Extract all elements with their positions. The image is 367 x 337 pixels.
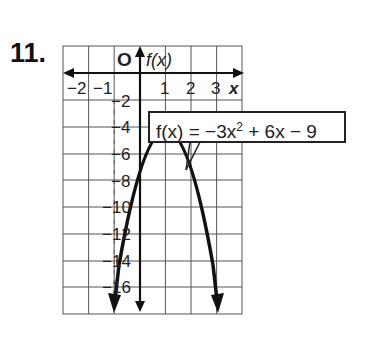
y-tick: −12 bbox=[102, 225, 131, 244]
x-tick: 3 bbox=[211, 79, 220, 98]
y-tick: −14 bbox=[102, 252, 131, 271]
y-tick: −2 bbox=[111, 92, 130, 111]
equation-exponent: 2 bbox=[236, 120, 243, 134]
y-tick: −8 bbox=[111, 172, 130, 191]
x-tick: −2 bbox=[67, 79, 86, 98]
y-axis-label: f(x) bbox=[146, 50, 172, 70]
x-tick: 2 bbox=[186, 79, 195, 98]
parabola-curve bbox=[119, 131, 213, 266]
y-tick: −16 bbox=[102, 278, 131, 297]
equation-lhs: f(x) = −3x bbox=[156, 121, 236, 142]
arrow-right-branch bbox=[211, 293, 224, 313]
origin-label: O bbox=[117, 49, 132, 70]
y-tick: −4 bbox=[111, 118, 130, 137]
x-tick: 1 bbox=[160, 79, 169, 98]
function-label-box: f(x) = −3x2 + 6x − 9 bbox=[148, 111, 346, 143]
x-tick: −1 bbox=[93, 79, 112, 98]
x-axis-label: x bbox=[228, 79, 240, 98]
y-tick: −6 bbox=[111, 145, 130, 164]
equation-rhs: + 6x − 9 bbox=[243, 121, 317, 142]
y-tick: −10 bbox=[102, 198, 131, 217]
parabola-graph: O f(x) x −2 −1 1 2 3 −2 −4 −6 −8 −10 −12… bbox=[0, 0, 367, 337]
